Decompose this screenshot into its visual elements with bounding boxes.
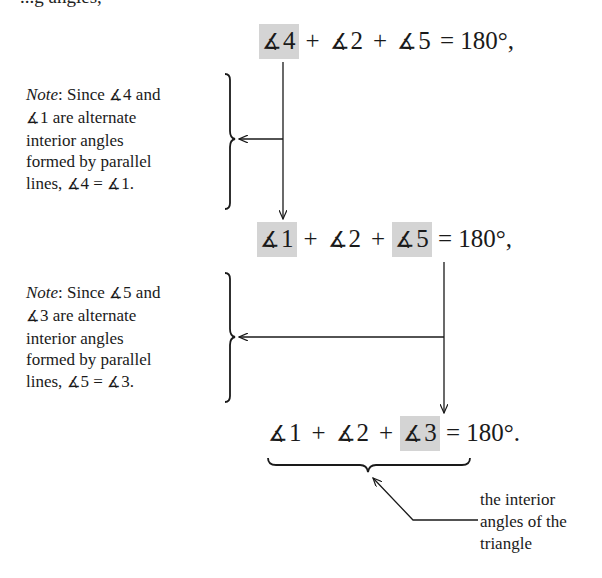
eq1-term-2: ∡2 (327, 24, 367, 59)
eq2-term-2-number: 2 (349, 225, 362, 252)
angle-icon: ∡ (109, 87, 122, 103)
plus-sign: + (304, 222, 318, 256)
note-1: Note: Since ∡4 and ∡1 are alternate inte… (26, 84, 226, 196)
note-line: ∡1 are alternate (26, 107, 226, 130)
plus-sign: + (371, 222, 385, 256)
note-text: and (132, 283, 161, 302)
eq1-term-3: ∡5 (394, 24, 434, 59)
eq1-term-1-number: 4 (283, 27, 296, 54)
angle-icon: ∡ (397, 29, 417, 54)
angle-icon: ∡ (336, 421, 356, 446)
plus-sign: + (373, 24, 387, 58)
note-text: = (89, 174, 107, 193)
angle-icon: ∡ (330, 29, 350, 54)
angle-icon: ∡ (328, 227, 348, 252)
eq2-term-2: ∡2 (325, 222, 365, 257)
equation-2: ∡1+∡2+∡5 = 180°, (257, 222, 512, 256)
note-angle-number: 3 (40, 306, 49, 325)
underbrace-label: the interior angles of the triangle (480, 489, 600, 555)
note-angle-number: 3 (121, 372, 130, 391)
note-label: Note (26, 85, 58, 104)
angle-icon: ∡ (67, 176, 80, 192)
label-line: angles of the (480, 511, 600, 533)
note-line: Note: Since ∡5 and (26, 282, 226, 305)
angle-icon: ∡ (262, 29, 282, 54)
right-brace-1 (225, 74, 235, 209)
angle-icon: ∡ (67, 374, 80, 390)
note-text: lines, (26, 174, 67, 193)
angle-icon: ∡ (26, 110, 39, 126)
angle-icon: ∡ (403, 421, 423, 446)
right-brace-2 (225, 273, 235, 402)
note-line: interior angles (26, 328, 226, 350)
pointer-arrow (373, 478, 478, 520)
note-angle-number: 1 (121, 174, 130, 193)
eq3-term-2: ∡2 (333, 416, 373, 451)
note-line: lines, ∡4 = ∡1. (26, 173, 226, 196)
note-text: and (132, 85, 161, 104)
angle-icon: ∡ (268, 421, 288, 446)
note-line: ∡3 are alternate (26, 305, 226, 328)
eq3-rhs: = 180°. (446, 419, 520, 446)
plus-sign: + (306, 24, 320, 58)
eq2-term-1-number: 1 (281, 225, 294, 252)
note-text: . (130, 372, 134, 391)
label-line: the interior (480, 489, 600, 511)
note-line: formed by parallel (26, 151, 226, 173)
eq2-term-1: ∡1 (257, 222, 297, 257)
note-line: Note: Since ∡4 and (26, 84, 226, 107)
eq3-term-3-number: 3 (424, 419, 437, 446)
plus-sign: + (312, 416, 326, 450)
note-label: Note (26, 283, 58, 302)
note-text: lines, (26, 372, 67, 391)
note-text: . (130, 174, 134, 193)
eq3-term-2-number: 2 (357, 419, 370, 446)
eq3-term-1-number: 1 (289, 419, 302, 446)
angle-icon: ∡ (260, 227, 280, 252)
note-angle-number: 5 (81, 372, 90, 391)
plus-sign: + (379, 416, 393, 450)
eq1-term-1: ∡4 (259, 24, 299, 59)
equation-3: ∡1+∡2+∡3 = 180°. (265, 416, 520, 450)
note-line: formed by parallel (26, 349, 226, 371)
note-text: : Since (58, 85, 109, 104)
note-angle-number: 5 (123, 283, 132, 302)
equation-1: ∡4+∡2+∡5 = 180°, (259, 24, 514, 58)
eq2-term-3-number: 5 (416, 225, 429, 252)
eq1-term-2-number: 2 (351, 27, 364, 54)
eq1-rhs: = 180°, (440, 27, 514, 54)
angle-icon: ∡ (109, 285, 122, 301)
eq1-term-3-number: 5 (418, 27, 431, 54)
angle-icon: ∡ (395, 227, 415, 252)
note-2: Note: Since ∡5 and ∡3 are alternate inte… (26, 282, 226, 394)
note-angle-number: 1 (40, 108, 49, 127)
label-line: triangle (480, 533, 600, 555)
eq3-term-3: ∡3 (400, 416, 440, 451)
clipped-top-text: ...g angles, (20, 0, 102, 8)
note-line: interior angles (26, 130, 226, 152)
angle-icon: ∡ (26, 308, 39, 324)
note-text: are alternate (49, 306, 137, 325)
eq3-term-1: ∡1 (265, 416, 305, 451)
note-angle-number: 4 (123, 85, 132, 104)
note-line: lines, ∡5 = ∡3. (26, 371, 226, 394)
angle-icon: ∡ (107, 176, 120, 192)
angle-icon: ∡ (107, 374, 120, 390)
note-text: are alternate (49, 108, 137, 127)
note-text: : Since (58, 283, 109, 302)
note-text: = (89, 372, 107, 391)
underbrace (268, 458, 470, 472)
eq2-rhs: = 180°, (438, 225, 512, 252)
note-angle-number: 4 (81, 174, 90, 193)
eq2-term-3: ∡5 (392, 222, 432, 257)
